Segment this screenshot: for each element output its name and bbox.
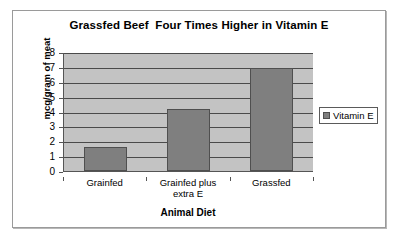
x-tick-mark bbox=[313, 177, 314, 181]
bar-series-vitamin-e bbox=[64, 53, 313, 171]
bar-slot bbox=[230, 53, 313, 171]
chart-title: Grassfed Beef Four Times Higher in Vitam… bbox=[13, 19, 385, 31]
x-axis-title: Animal Diet bbox=[63, 207, 313, 218]
y-tick-label: 5 bbox=[49, 93, 55, 103]
bar-slot bbox=[64, 53, 147, 171]
y-tick-label: 2 bbox=[49, 137, 55, 147]
bar[interactable] bbox=[167, 109, 210, 171]
y-tick-label: 8 bbox=[49, 48, 55, 58]
y-tick-label: 6 bbox=[49, 78, 55, 88]
chart-frame: Grassfed Beef Four Times Higher in Vitam… bbox=[12, 10, 386, 228]
y-tick-label: 4 bbox=[49, 108, 55, 118]
y-tick-label: 7 bbox=[49, 63, 55, 73]
bar[interactable] bbox=[250, 68, 293, 171]
y-axis-tick-labels: 012345678 bbox=[41, 53, 59, 172]
y-tick-label: 3 bbox=[49, 122, 55, 132]
x-tick-label: Grassfed bbox=[230, 177, 313, 199]
y-tick-label: 0 bbox=[49, 167, 55, 177]
x-tick-label: Grainfed plus extra E bbox=[146, 177, 229, 199]
legend-square-icon bbox=[323, 112, 330, 119]
y-tick-label: 1 bbox=[49, 152, 55, 162]
x-tick-label: Grainfed bbox=[63, 177, 146, 199]
legend-label: Vitamin E bbox=[333, 110, 373, 121]
plot-area bbox=[63, 53, 313, 172]
x-tick-mark bbox=[63, 177, 64, 181]
x-tick-mark bbox=[146, 177, 147, 181]
x-tick-mark bbox=[230, 177, 231, 181]
x-axis-tick-labels: GrainfedGrainfed plus extra EGrassfed bbox=[63, 177, 313, 199]
y-tick-mark bbox=[59, 172, 63, 173]
bar-slot bbox=[147, 53, 230, 171]
chart-legend: Vitamin E bbox=[319, 107, 378, 124]
bar[interactable] bbox=[84, 147, 127, 171]
